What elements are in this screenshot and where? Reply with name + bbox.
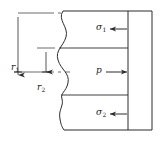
wavy-break-line bbox=[57, 11, 68, 130]
label-top-stress: σ1 bbox=[96, 23, 106, 32]
label-pressure: p bbox=[96, 66, 102, 75]
figure-canvas: r1 r2 σ1 p σ2 bbox=[0, 0, 164, 141]
diagram-svg bbox=[0, 0, 164, 141]
label-outer-radius-symbol: r bbox=[11, 62, 15, 72]
label-pressure-symbol: p bbox=[96, 65, 102, 75]
body-outline bbox=[63, 11, 152, 130]
force-arrows bbox=[106, 29, 127, 114]
label-outer-radius: r1 bbox=[11, 63, 19, 72]
label-inner-radius-symbol: r bbox=[37, 82, 41, 92]
break-line-path bbox=[57, 11, 68, 130]
label-top-stress-subscript: 1 bbox=[102, 26, 106, 33]
label-inner-radius: r2 bbox=[37, 83, 45, 92]
label-bottom-stress-subscript: 2 bbox=[102, 111, 106, 118]
label-outer-radius-subscript: 1 bbox=[16, 66, 20, 73]
label-bottom-stress: σ2 bbox=[96, 108, 106, 117]
label-inner-radius-subscript: 2 bbox=[42, 86, 46, 93]
dimension-r2 bbox=[42, 52, 50, 72]
construction-lines bbox=[14, 13, 70, 72]
